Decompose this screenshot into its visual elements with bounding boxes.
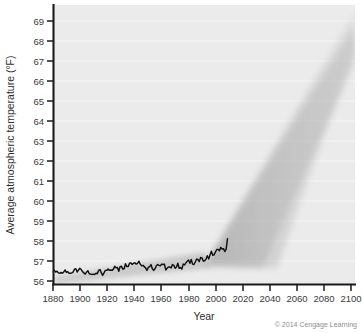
y-tick-label: 68 xyxy=(33,36,44,47)
y-tick-label: 63 xyxy=(33,136,44,147)
y-tick-label: 56 xyxy=(33,276,44,287)
y-axis-title: Average atmospheric temperature (°F) xyxy=(4,55,16,234)
y-tick-label: 62 xyxy=(33,156,44,167)
copyright-credit: © 2014 Cengage Learning xyxy=(275,321,357,329)
y-axis-tick-labels: 69 68 67 66 65 64 63 62 61 60 59 58 57 5… xyxy=(33,16,44,287)
x-axis-title: Year xyxy=(193,310,215,322)
x-tick-label: 1940 xyxy=(123,293,144,304)
x-tick-label: 2000 xyxy=(205,293,226,304)
y-tick-label: 58 xyxy=(33,236,44,247)
y-tick-label: 66 xyxy=(33,76,44,87)
x-tick-label: 2080 xyxy=(313,293,334,304)
chart-canvas: 69 68 67 66 65 64 63 62 61 60 59 58 57 5… xyxy=(0,0,363,333)
x-tick-label: 1980 xyxy=(178,293,199,304)
y-tick-label: 57 xyxy=(33,256,44,267)
y-tick-label: 67 xyxy=(33,56,44,67)
y-axis-ticks xyxy=(47,21,53,281)
x-tick-label: 1900 xyxy=(69,293,90,304)
x-tick-label: 1920 xyxy=(96,293,117,304)
x-tick-label: 1960 xyxy=(150,293,171,304)
x-tick-label: 2040 xyxy=(259,293,280,304)
y-tick-label: 60 xyxy=(33,196,44,207)
y-tick-label: 69 xyxy=(33,16,44,27)
y-tick-label: 61 xyxy=(33,176,44,187)
y-tick-label: 64 xyxy=(33,116,44,127)
x-axis-tick-labels: 1880 1900 1920 1940 1960 1980 2000 2020 … xyxy=(42,293,361,304)
x-tick-label: 2100 xyxy=(340,293,361,304)
temperature-chart-figure: 69 68 67 66 65 64 63 62 61 60 59 58 57 5… xyxy=(0,0,363,333)
x-tick-label: 2060 xyxy=(286,293,307,304)
x-tick-label: 2020 xyxy=(232,293,253,304)
y-tick-label: 65 xyxy=(33,96,44,107)
y-tick-label: 59 xyxy=(33,216,44,227)
x-tick-label: 1880 xyxy=(42,293,63,304)
